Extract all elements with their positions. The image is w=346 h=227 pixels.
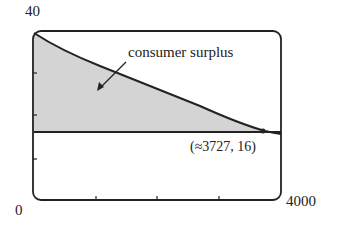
x-min-label: 0 (15, 202, 23, 219)
equilibrium-point-label: (≈3727, 16) (190, 139, 256, 155)
x-max-label: 4000 (286, 193, 316, 210)
y-max-label: 40 (25, 3, 40, 20)
equilibrium-point (261, 129, 266, 134)
consumer-surplus-label: consumer surplus (128, 44, 233, 61)
